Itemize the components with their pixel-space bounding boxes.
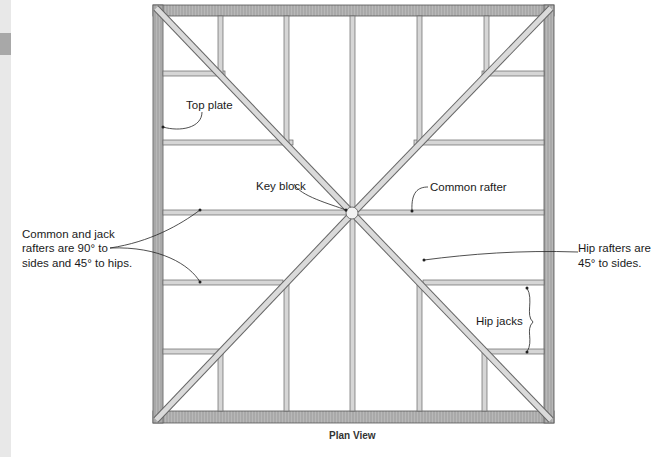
key-block xyxy=(346,207,358,219)
label-common-jack-line2: rafters are 90° to xyxy=(22,241,108,255)
label-hip-rafters-line1: Hip rafters are xyxy=(578,241,651,255)
label-common-rafter: Common rafter xyxy=(430,180,507,194)
label-common-jack-line3: sides and 45° to hips. xyxy=(22,256,132,270)
label-hip-rafters-line2: 45° to sides. xyxy=(578,256,641,270)
leader-arrowheads xyxy=(162,126,529,354)
label-key-block: Key block xyxy=(256,179,306,193)
label-hip-jacks: Hip jacks xyxy=(476,314,523,328)
label-top-plate: Top plate xyxy=(186,98,233,112)
diagram-caption: Plan View xyxy=(329,430,376,441)
label-common-jack-line1: Common and jack xyxy=(22,227,115,241)
